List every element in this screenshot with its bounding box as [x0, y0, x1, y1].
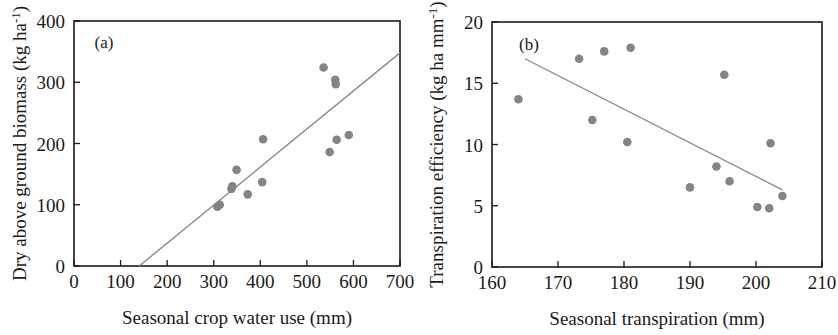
y-tick-label: 10: [464, 135, 483, 156]
regression-line: [139, 53, 400, 266]
regression-line: [525, 59, 782, 190]
x-tick-label: 700: [386, 271, 415, 292]
panel-b-plot: 16017018019020021005101520(b)Seasonal tr…: [419, 0, 838, 335]
plot-frame: [74, 21, 400, 266]
y-tick-label: 400: [37, 11, 66, 32]
y-tick-label: 0: [474, 257, 484, 278]
y-tick-label: 100: [37, 195, 66, 216]
data-point: [325, 148, 334, 157]
data-point: [332, 136, 341, 145]
x-tick-label: 200: [742, 272, 771, 293]
x-tick-label: 100: [106, 271, 135, 292]
figure-container: 01002003004005006007000100200300400(a)Se…: [0, 0, 838, 335]
panel-a-plot: 01002003004005006007000100200300400(a)Se…: [0, 0, 419, 335]
panel-tag: (b): [519, 35, 539, 54]
y-tick-label: 5: [474, 196, 484, 217]
data-point: [686, 183, 695, 192]
data-point: [588, 116, 597, 125]
data-point: [626, 43, 635, 52]
panel-tag: (a): [95, 33, 114, 52]
x-tick-label: 400: [246, 271, 275, 292]
x-tick-label: 210: [808, 272, 837, 293]
data-point: [720, 70, 729, 79]
x-tick-label: 200: [153, 271, 182, 292]
y-tick-label: 0: [56, 256, 66, 277]
data-point: [725, 177, 734, 186]
x-tick-label: 180: [610, 272, 639, 293]
data-point: [228, 182, 237, 191]
data-point: [765, 204, 774, 213]
y-tick-label: 20: [464, 12, 483, 33]
data-point: [623, 138, 632, 147]
y-axis-title: Dry above ground biomass (kg ha-1): [8, 6, 31, 281]
y-tick-label: 300: [37, 72, 66, 93]
panel-b: 16017018019020021005101520(b)Seasonal tr…: [419, 0, 838, 335]
data-point: [258, 178, 267, 187]
data-point: [753, 203, 762, 212]
data-point: [575, 54, 584, 63]
data-point: [344, 131, 353, 140]
data-point: [766, 139, 775, 148]
data-point: [243, 190, 252, 199]
x-tick-label: 600: [339, 271, 368, 292]
data-point: [712, 162, 721, 171]
x-tick-label: 190: [676, 272, 705, 293]
x-tick-label: 170: [544, 272, 573, 293]
x-axis-title: Seasonal crop water use (mm): [122, 307, 352, 329]
data-point: [514, 95, 523, 104]
y-tick-label: 15: [464, 73, 483, 94]
panel-a: 01002003004005006007000100200300400(a)Se…: [0, 0, 419, 335]
data-point: [215, 200, 224, 209]
x-axis-title: Seasonal transpiration (mm): [549, 308, 764, 330]
x-tick-label: 0: [69, 271, 79, 292]
x-tick-label: 300: [199, 271, 228, 292]
data-point: [319, 63, 328, 72]
data-point: [600, 47, 609, 56]
x-tick-label: 500: [293, 271, 322, 292]
data-point: [259, 135, 268, 144]
data-point: [778, 192, 787, 201]
data-point: [331, 80, 340, 89]
y-tick-label: 200: [37, 134, 66, 155]
data-point: [232, 166, 241, 175]
y-axis-title: Transpiration efficiency (kg ha mm-1): [425, 1, 448, 287]
